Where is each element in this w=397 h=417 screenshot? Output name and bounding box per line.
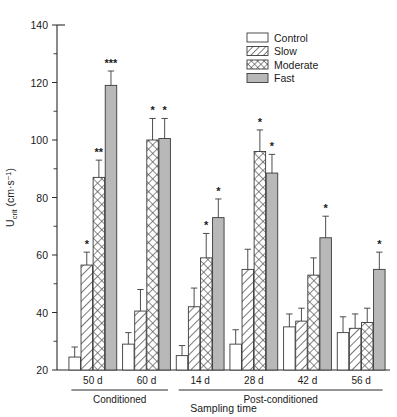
significance-marker: * bbox=[270, 140, 275, 152]
chart-container: 20406080100120140 ************** 50 d60 … bbox=[0, 0, 397, 417]
legend-swatch-moderate bbox=[247, 60, 268, 69]
bar bbox=[284, 327, 296, 370]
significance-marker: * bbox=[85, 238, 90, 250]
chart-legend: ControlSlowModerateFast bbox=[247, 32, 319, 85]
bar bbox=[93, 177, 105, 370]
y-tick-label: 100 bbox=[30, 134, 48, 146]
phase-label: Conditioned bbox=[93, 394, 146, 405]
significance-marker: *** bbox=[105, 57, 119, 69]
legend-swatch-control bbox=[247, 33, 268, 42]
bar bbox=[123, 344, 135, 370]
bar bbox=[349, 328, 361, 370]
x-category-label: 60 d bbox=[137, 375, 156, 386]
y-axis-title: Ucrit (cm·s−1) bbox=[4, 168, 20, 227]
bar bbox=[308, 275, 320, 370]
y-axis: 20406080100120140 bbox=[30, 19, 57, 376]
y-tick-label: 140 bbox=[30, 19, 48, 31]
significance-marker: * bbox=[216, 185, 221, 197]
bar bbox=[135, 311, 147, 370]
bar bbox=[81, 265, 93, 370]
y-tick-label: 120 bbox=[30, 77, 48, 89]
significance-marker: * bbox=[324, 202, 329, 214]
x-axis: 50 d60 d14 d28 d42 d56 dConditionedPost-… bbox=[71, 375, 382, 405]
legend-swatch-fast bbox=[247, 74, 268, 83]
legend-label-control: Control bbox=[274, 32, 308, 44]
significance-marker: * bbox=[204, 219, 209, 231]
bar bbox=[242, 269, 254, 370]
bar bbox=[266, 173, 278, 370]
y-tick-label: 60 bbox=[36, 249, 48, 261]
x-category-label: 14 d bbox=[190, 375, 209, 386]
x-category-label: 42 d bbox=[298, 375, 317, 386]
bar bbox=[320, 238, 332, 370]
bar bbox=[361, 323, 373, 370]
y-tick-label: 40 bbox=[36, 307, 48, 319]
legend-swatch-slow bbox=[247, 47, 268, 56]
y-tick-label: 80 bbox=[36, 192, 48, 204]
x-category-label: 50 d bbox=[83, 375, 102, 386]
bars-layer: ************** bbox=[69, 57, 385, 370]
significance-marker: ** bbox=[95, 146, 104, 158]
bar bbox=[337, 333, 349, 370]
x-axis-title: Sampling time bbox=[190, 402, 257, 414]
bar bbox=[254, 152, 266, 371]
bar bbox=[200, 258, 212, 370]
bar bbox=[159, 139, 171, 370]
significance-marker: * bbox=[377, 238, 382, 250]
legend-label-moderate: Moderate bbox=[274, 59, 319, 71]
bar bbox=[213, 218, 225, 370]
bar bbox=[69, 357, 81, 370]
bar bbox=[105, 85, 117, 370]
bar-chart: 20406080100120140 ************** 50 d60 … bbox=[0, 0, 397, 417]
bar bbox=[188, 307, 200, 370]
bar bbox=[296, 321, 308, 370]
legend-label-fast: Fast bbox=[274, 72, 295, 84]
bar bbox=[176, 356, 188, 370]
x-category-label: 28 d bbox=[244, 375, 263, 386]
bar bbox=[230, 344, 242, 370]
legend-label-slow: Slow bbox=[274, 45, 297, 57]
x-category-label: 56 d bbox=[351, 375, 370, 386]
y-tick-label: 20 bbox=[36, 364, 48, 376]
bar bbox=[374, 269, 386, 370]
bar bbox=[147, 140, 159, 370]
significance-marker: * bbox=[150, 104, 155, 116]
significance-marker: * bbox=[163, 104, 168, 116]
significance-marker: * bbox=[258, 116, 263, 128]
